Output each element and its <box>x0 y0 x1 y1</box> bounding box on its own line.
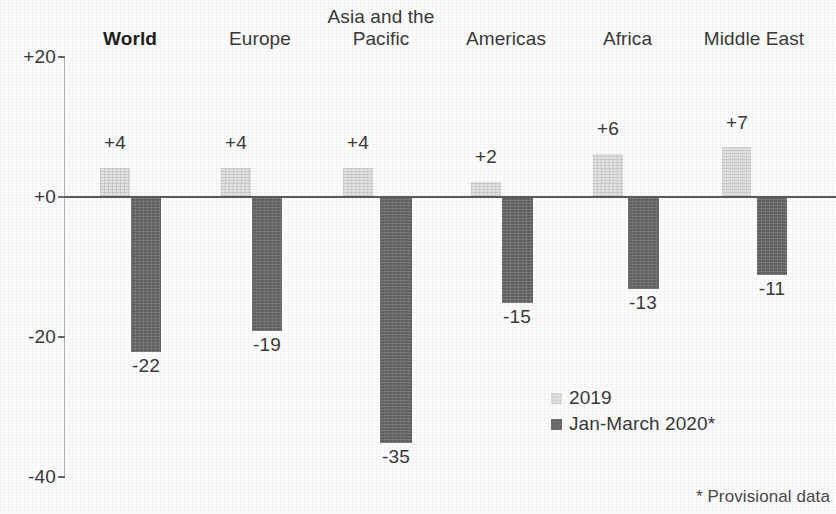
bar-2019-world <box>100 168 130 196</box>
legend-swatch-2019-icon <box>551 393 562 404</box>
category-label-middle-east: Middle East <box>684 28 824 50</box>
category-label-africa-line1: Africa <box>570 28 685 50</box>
zero-baseline <box>64 196 836 198</box>
value-label-2019-americas: +2 <box>456 146 516 168</box>
bar-2019-middle-east <box>722 147 751 196</box>
y-tick-mark-2 <box>58 336 65 338</box>
category-label-middle-east-line1: Middle East <box>684 28 824 50</box>
y-tick-label-2: -20 <box>0 326 56 348</box>
value-label-2020-middle-east: -11 <box>742 278 802 300</box>
category-label-americas-line1: Americas <box>441 28 571 50</box>
value-label-2020-asia-pacific: -35 <box>366 446 426 468</box>
bar-2020-world <box>131 198 161 352</box>
category-label-europe-line1: Europe <box>200 28 320 50</box>
bar-2019-africa <box>593 154 623 196</box>
bar-2020-europe <box>252 198 282 331</box>
footnote-provisional-data: * Provisional data <box>696 487 830 507</box>
category-label-asia-pacific: Asia and the Pacific <box>311 6 451 50</box>
category-label-americas: Americas <box>441 28 571 50</box>
value-label-2019-africa: +6 <box>578 118 638 140</box>
category-label-asia-pacific-line2: Pacific <box>311 28 451 50</box>
category-label-world: World <box>70 28 190 50</box>
chart-legend: 2019 Jan-March 2020* <box>551 385 715 437</box>
value-label-2020-africa: -13 <box>613 292 673 314</box>
value-label-2020-americas: -15 <box>487 306 547 328</box>
bar-2019-americas <box>471 182 501 196</box>
bar-2019-asia-pacific <box>343 168 373 196</box>
y-tick-label-3: -40 <box>0 466 56 488</box>
value-label-2020-europe: -19 <box>237 334 297 356</box>
legend-label-2019: 2019 <box>569 387 612 409</box>
bar-2020-africa <box>628 198 659 289</box>
bar-2020-middle-east <box>757 198 787 275</box>
bar-2020-asia-pacific <box>380 198 412 443</box>
value-label-2019-asia-pacific: +4 <box>328 132 388 154</box>
value-label-2019-middle-east: +7 <box>707 112 767 134</box>
legend-label-jan-march-2020: Jan-March 2020* <box>569 413 715 435</box>
y-tick-mark-3 <box>58 476 65 478</box>
y-tick-mark-1 <box>58 196 65 198</box>
category-label-europe: Europe <box>200 28 320 50</box>
y-tick-mark-0 <box>58 56 65 58</box>
category-label-world-line1: World <box>70 28 190 50</box>
value-label-2019-europe: +4 <box>206 132 266 154</box>
value-label-2019-world: +4 <box>85 132 145 154</box>
legend-item-jan-march-2020[interactable]: Jan-March 2020* <box>551 411 715 437</box>
y-tick-label-0: +20 <box>0 46 56 68</box>
category-label-asia-pacific-line1: Asia and the <box>311 6 451 28</box>
bar-2019-europe <box>221 168 251 196</box>
category-label-africa: Africa <box>570 28 685 50</box>
y-tick-label-1: +0 <box>0 186 56 208</box>
bar-chart: +20 +0 -20 -40 World Europe Asia and the… <box>0 0 836 514</box>
legend-item-2019[interactable]: 2019 <box>551 385 715 411</box>
value-label-2020-world: -22 <box>116 355 176 377</box>
legend-swatch-2020-icon <box>551 419 562 430</box>
bar-2020-americas <box>502 198 533 303</box>
y-axis-line <box>64 56 65 476</box>
